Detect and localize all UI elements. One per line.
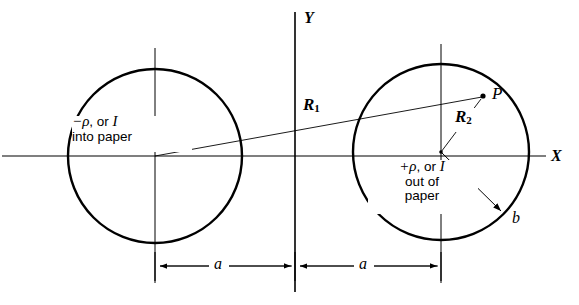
right-conductor-label-line2: out of — [366, 175, 478, 190]
physics-diagram-figure: Y X −ρ, or I into paper +ρ, or I out of … — [0, 0, 579, 305]
right-conductor-label: +ρ, or I out of paper — [366, 158, 478, 204]
x-axis-label: X — [551, 147, 562, 164]
right-current-symbol: I — [440, 158, 445, 174]
point-p-label: P — [492, 85, 502, 103]
r2-label-letter: R — [455, 107, 466, 126]
left-conductor-label-line1: −ρ, or I — [72, 113, 190, 130]
y-axis-label: Y — [304, 9, 314, 26]
right-conductor-label-line3: paper — [366, 189, 478, 204]
right-center-dot — [439, 150, 443, 154]
r1-label: R1 — [303, 96, 320, 115]
left-current-symbol: I — [113, 113, 118, 129]
b-radius-label: b — [512, 209, 520, 226]
left-conductor-label: −ρ, or I into paper — [72, 113, 190, 144]
point-p-marker — [480, 93, 485, 98]
dimension-a-left-label: a — [214, 255, 222, 272]
r1-label-letter: R — [303, 95, 314, 114]
r1-label-subscript: 1 — [314, 102, 320, 114]
right-charge-sign: + — [399, 158, 409, 174]
right-conductor-label-line1: +ρ, or I — [366, 158, 478, 175]
diagram-canvas — [0, 0, 579, 305]
right-label-connector: , or — [417, 159, 440, 174]
left-charge-sign: − — [72, 113, 82, 129]
dimension-a-right-label: a — [359, 255, 367, 272]
r2-label: R2 — [455, 108, 472, 127]
r2-label-subscript: 2 — [466, 114, 472, 126]
right-charge-rho-symbol: ρ — [409, 158, 416, 174]
left-conductor-label-line2: into paper — [72, 130, 190, 145]
left-label-connector: , or — [89, 114, 112, 129]
